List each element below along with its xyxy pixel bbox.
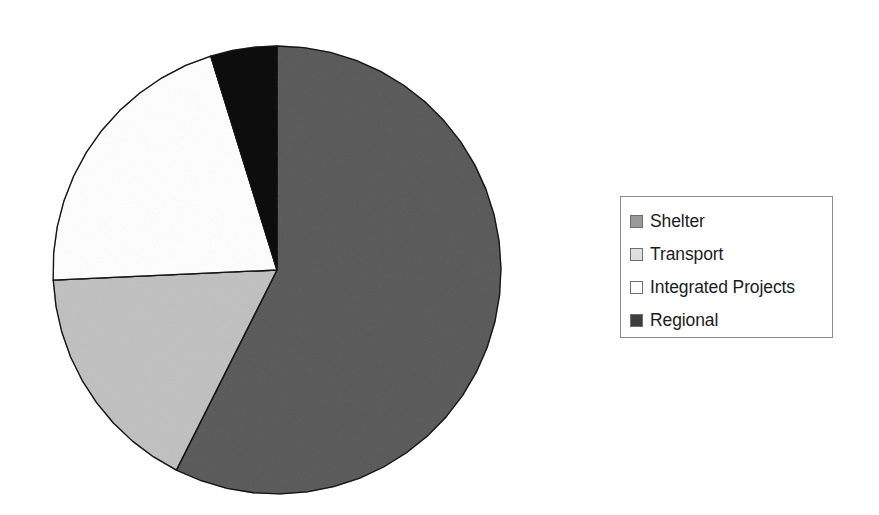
legend-label-transport: Transport [650, 245, 723, 264]
legend-swatch-shelter [630, 215, 643, 228]
legend-item-regional[interactable]: Regional [630, 305, 832, 336]
legend-label-integrated-projects: Integrated Projects [650, 278, 795, 297]
pie-chart-figure: Shelter Transport Integrated Projects Re… [0, 0, 879, 515]
legend-label-shelter: Shelter [650, 212, 705, 231]
legend-item-integrated-projects[interactable]: Integrated Projects [630, 272, 832, 303]
legend-label-regional: Regional [650, 311, 718, 330]
chart-legend: Shelter Transport Integrated Projects Re… [620, 196, 833, 338]
legend-item-shelter[interactable]: Shelter [630, 206, 832, 237]
legend-swatch-integrated-projects [630, 281, 643, 294]
legend-item-transport[interactable]: Transport [630, 239, 832, 270]
legend-swatch-regional [630, 314, 643, 327]
legend-swatch-transport [630, 248, 643, 261]
pie-slices-group [53, 46, 501, 494]
